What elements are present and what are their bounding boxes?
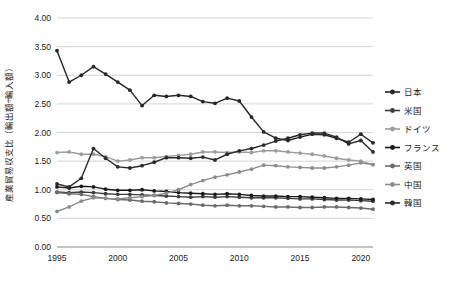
data-point	[128, 196, 132, 200]
data-point	[274, 194, 278, 198]
data-point	[79, 152, 83, 156]
data-point	[213, 204, 217, 208]
data-point	[79, 199, 83, 203]
data-point	[359, 132, 363, 136]
y-tick-label: 1.00	[34, 185, 51, 195]
data-point	[164, 95, 168, 99]
data-point	[189, 183, 193, 187]
data-point	[104, 187, 108, 191]
data-point	[262, 149, 266, 153]
data-point	[225, 203, 229, 207]
y-tick-label: 0.00	[34, 242, 51, 252]
data-point	[286, 136, 290, 140]
data-point	[213, 150, 217, 154]
data-point	[92, 185, 96, 189]
legend-marker-0	[390, 90, 395, 95]
data-point	[371, 198, 375, 202]
data-point	[164, 201, 168, 205]
data-point	[322, 196, 326, 200]
data-point	[55, 182, 59, 186]
data-point	[225, 152, 229, 156]
data-point	[104, 72, 108, 76]
data-point	[55, 210, 59, 214]
legend-marker-4	[390, 164, 395, 169]
legend-marker-2	[390, 127, 395, 132]
data-point	[347, 142, 351, 146]
data-point	[116, 188, 120, 192]
y-axis-title: 産業貿易収支比（輸出額÷輸入額）	[4, 63, 14, 203]
data-point	[67, 205, 71, 209]
data-point	[250, 194, 254, 198]
data-point	[177, 188, 181, 192]
data-point	[335, 165, 339, 169]
data-point	[189, 152, 193, 156]
legend-marker-3	[390, 145, 395, 150]
data-point	[164, 191, 168, 195]
data-point	[152, 156, 156, 160]
data-point	[213, 175, 217, 179]
data-point	[237, 204, 241, 208]
data-point	[55, 49, 59, 53]
data-point	[128, 158, 132, 162]
data-point	[140, 156, 144, 160]
chart-background	[0, 0, 455, 282]
data-point	[359, 206, 363, 210]
data-point	[274, 164, 278, 168]
data-point	[335, 196, 339, 200]
data-point	[298, 133, 302, 137]
data-point	[116, 159, 120, 163]
legend-label-5: 中国	[404, 180, 422, 190]
data-point	[104, 156, 108, 160]
data-point	[347, 158, 351, 162]
data-point	[310, 131, 314, 135]
legend-label-6: 韓国	[404, 198, 422, 208]
data-point	[359, 197, 363, 201]
data-point	[262, 204, 266, 208]
data-point	[262, 194, 266, 198]
data-point	[213, 101, 217, 105]
x-tick-label: 2005	[169, 253, 188, 263]
data-point	[310, 152, 314, 156]
data-point	[322, 166, 326, 170]
data-point	[67, 192, 71, 196]
data-point	[274, 139, 278, 143]
industry-trade-balance-line-chart: 4.003.503.002.502.001.501.000.500.00 199…	[0, 0, 455, 282]
data-point	[335, 135, 339, 139]
data-point	[104, 196, 108, 200]
data-point	[128, 192, 132, 196]
data-point	[237, 149, 241, 153]
data-point	[55, 191, 59, 195]
x-tick-label: 2020	[351, 253, 370, 263]
data-point	[371, 150, 375, 154]
data-point	[262, 130, 266, 134]
data-point	[177, 93, 181, 97]
data-point	[92, 191, 96, 195]
data-point	[140, 188, 144, 192]
data-point	[347, 206, 351, 210]
chart-canvas: 4.003.503.002.502.001.501.000.500.00 199…	[0, 0, 455, 282]
data-point	[310, 166, 314, 170]
data-point	[79, 192, 83, 196]
data-point	[201, 100, 205, 104]
data-point	[237, 170, 241, 174]
x-tick-label: 2010	[230, 253, 249, 263]
data-point	[116, 197, 120, 201]
data-point	[262, 143, 266, 147]
data-point	[128, 88, 132, 92]
data-point	[140, 104, 144, 108]
data-point	[55, 151, 59, 155]
data-point	[225, 192, 229, 196]
x-tick-label: 2015	[291, 253, 310, 263]
y-tick-label: 2.50	[34, 99, 51, 109]
data-point	[213, 158, 217, 162]
data-point	[116, 80, 120, 84]
data-point	[152, 189, 156, 193]
legend-label-0: 日本	[404, 87, 422, 97]
data-point	[274, 149, 278, 153]
data-point	[237, 192, 241, 196]
data-point	[286, 165, 290, 169]
data-point	[189, 95, 193, 99]
data-point	[189, 202, 193, 206]
legend-marker-5	[390, 182, 395, 187]
data-point	[189, 191, 193, 195]
